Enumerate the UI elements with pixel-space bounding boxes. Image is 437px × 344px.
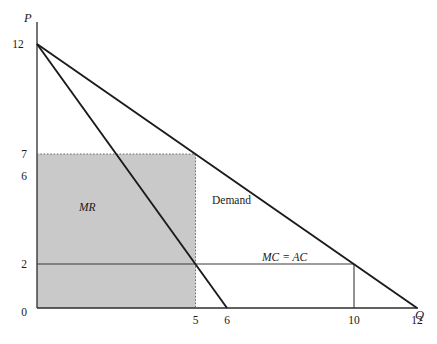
monopoly-graph: P Q 12 7 6 2 0 5 6 10 12 Demand MR MC = … <box>0 0 437 344</box>
origin-tick-0: 0 <box>21 306 27 318</box>
y-tick-7: 7 <box>21 148 27 160</box>
chart-canvas: P Q 12 7 6 2 0 5 6 10 12 Demand MR MC = … <box>0 0 437 344</box>
demand-curve-label: Demand <box>212 194 251 206</box>
y-tick-2: 2 <box>21 258 27 270</box>
y-tick-12: 12 <box>12 38 24 50</box>
x-tick-6: 6 <box>224 314 230 326</box>
mr-curve-label: MR <box>78 201 96 213</box>
x-tick-10: 10 <box>348 314 360 326</box>
y-axis-label: P <box>23 11 32 25</box>
x-tick-12: 12 <box>411 314 423 326</box>
mc-ac-curve-label: MC = AC <box>261 251 308 263</box>
y-tick-6: 6 <box>21 170 27 182</box>
x-tick-5: 5 <box>193 314 199 326</box>
